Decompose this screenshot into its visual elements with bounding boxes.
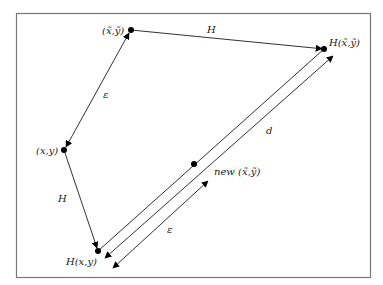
point-H-x-y <box>95 248 101 254</box>
edge-H-top <box>131 30 322 49</box>
edge-residual <box>98 49 324 251</box>
edge-H-left <box>64 150 97 248</box>
label-new-xt-yt: new (x̃,ỹ) <box>214 166 260 177</box>
label-H-x-y: H(x,y) <box>65 256 97 267</box>
diagram-canvas: (x̃,ỹ) H(x̃,ỹ) (x,y) H(x,y) new (x̃,ỹ) H… <box>0 0 383 285</box>
label-xt-yt: (x̃,ỹ) <box>102 25 124 36</box>
label-edge-H-left: H <box>57 193 67 204</box>
edge-d <box>105 56 333 258</box>
point-x-y <box>61 147 67 153</box>
label-H-xt-yt: H(x̃,ỹ) <box>328 37 360 48</box>
label-edge-d: d <box>266 125 272 136</box>
label-edge-epsilon-left: ε <box>103 89 108 100</box>
edge-epsilon-left <box>66 33 129 147</box>
label-edge-H-top: H <box>206 24 216 35</box>
label-edge-epsilon-bottom: ε <box>167 224 172 235</box>
diagram-frame <box>17 14 371 278</box>
point-new-xt-yt <box>191 161 197 167</box>
point-H-xt-yt <box>321 46 327 52</box>
label-x-y: (x,y) <box>36 145 58 156</box>
point-xt-yt <box>128 27 134 33</box>
